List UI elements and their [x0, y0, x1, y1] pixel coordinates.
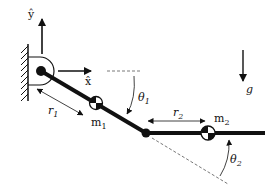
mass-2-centroid [201, 126, 215, 140]
wall-hatched-ground [21, 44, 28, 101]
r2-label: r2 [173, 106, 183, 121]
theta2-reference-line [152, 138, 228, 184]
mass-1-centroid [90, 97, 103, 110]
theta1-label: θ1 [138, 91, 150, 106]
theta2-label: θ2 [230, 153, 242, 168]
r1-label: r1 [48, 104, 58, 119]
theta2-arc [220, 140, 229, 176]
y-axis-label: ŷ [27, 8, 35, 21]
elbow-joint [142, 129, 151, 138]
base-pivot [36, 66, 46, 76]
m2-label: m2 [214, 112, 230, 127]
gravity-label: g [246, 83, 253, 96]
double-pendulum-diagram: ŷ x̂ r1 m1 θ1 r2 m2 θ2 g [0, 0, 280, 194]
theta1-arc [127, 76, 134, 114]
x-axis-label: x̂ [85, 75, 92, 88]
m1-label: m1 [91, 116, 107, 131]
